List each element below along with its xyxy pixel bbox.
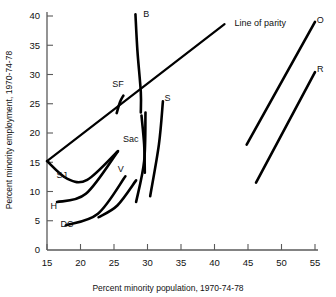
y-tick-label: 30 [29,69,40,80]
series-label-h: H [50,201,57,211]
y-tick-label: 20 [29,127,40,138]
series-label-sj: SJ [56,170,67,180]
series-label-v: V [118,164,124,174]
series-path-r [256,72,315,183]
series-path-dc [99,180,137,217]
series-label-dc: DC [61,219,74,229]
annotation-label-line-of-parity: Line of parity [235,18,287,28]
scatter-trajectory-plot: 152025303540455055 0510152025303540 BSFS… [0,0,336,297]
series-label-b: B [143,9,149,19]
y-tick-label: 25 [29,98,40,109]
series-path-o [247,22,315,145]
x-tick-label: 40 [209,257,220,268]
y-tick-label: 5 [35,215,40,226]
series-path-b [135,14,141,112]
series-label-sf: SF [112,79,124,89]
x-tick-label: 35 [176,257,187,268]
data-series [47,14,315,225]
y-axis-title: Percent minority employment, 1970-74-78 [4,51,14,210]
y-tick-label: 0 [35,244,40,255]
x-tick-label: 15 [42,257,53,268]
x-tick-label: 25 [109,257,120,268]
series-label-o: O [317,15,324,25]
y-tick-label: 35 [29,40,40,51]
x-axis-title: Percent minority population, 1970-74-78 [92,283,243,293]
chart-container: 152025303540455055 0510152025303540 BSFS… [0,0,336,297]
series-label-sac: Sac [123,134,139,144]
x-tick-label: 30 [142,257,153,268]
series-path-s [150,101,163,196]
y-tick-label: 40 [29,10,40,21]
x-tick-label: 50 [276,257,287,268]
x-tick-label: 55 [310,257,321,268]
y-tick-label: 15 [29,157,40,168]
y-tick-label: 10 [29,186,40,197]
x-tick-labels: 152025303540455055 [42,257,321,268]
x-tick-label: 45 [243,257,254,268]
series-labels: BSFSacSSJHVDCOR [50,9,324,228]
x-tick-label: 20 [75,257,86,268]
y-tick-labels: 0510152025303540 [29,10,40,255]
series-label-r: R [317,64,324,74]
series-label-s: S [165,93,171,103]
tick-marks [47,16,315,250]
series-path-v2 [136,113,145,203]
